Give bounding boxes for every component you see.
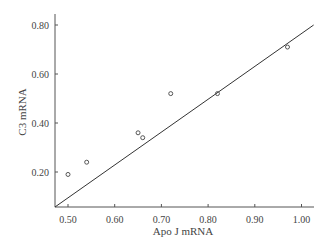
data-point [136,131,140,135]
y-tick-label: 0.40 [32,118,50,129]
regression-line [55,25,314,207]
y-tick-label: 0.60 [32,69,50,80]
data-point [66,172,70,176]
data-point [85,160,89,164]
data-point [285,45,289,49]
y-tick-label: 0.20 [32,167,50,178]
x-axis-label: Apo J mRNA [153,225,214,237]
x-tick-label: 0.70 [153,214,171,225]
x-tick-label: 1.00 [293,214,311,225]
data-point [141,136,145,140]
data-points [66,45,289,176]
data-point [169,92,173,96]
y-tick-label: 0.80 [32,20,50,31]
x-tick-label: 0.80 [199,214,217,225]
x-tick-label: 0.50 [59,214,77,225]
scatter-chart: 0.500.600.700.800.901.000.200.400.600.80… [0,0,328,249]
x-tick-label: 0.60 [106,214,124,225]
y-axis-label: C3 mRNA [16,88,28,135]
fit-line [55,25,314,207]
x-tick-label: 0.90 [246,214,264,225]
